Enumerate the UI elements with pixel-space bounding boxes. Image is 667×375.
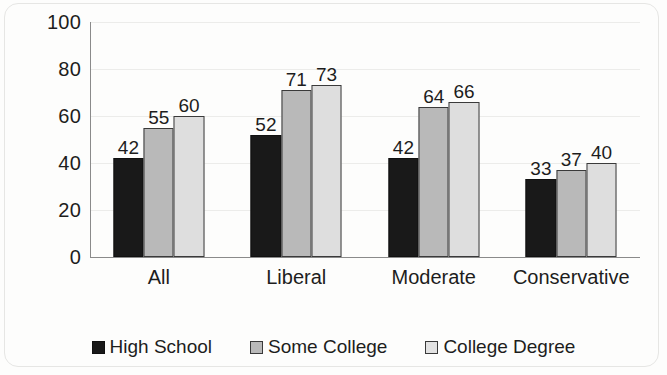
bar-chart: 100 80 60 40 20 0 42 55	[0, 0, 667, 375]
bar-value-label: 42	[118, 138, 139, 157]
bar-liberal-high-school[interactable]: 52	[251, 135, 281, 257]
bar-value-label: 37	[561, 150, 582, 169]
bar-moderate-some-college[interactable]: 64	[419, 107, 449, 257]
bar-group-moderate: 42 64 66	[365, 22, 503, 257]
y-axis-tick-labels: 100 80 60 40 20 0	[28, 0, 81, 375]
y-tick-0: 0	[28, 247, 81, 267]
bar-liberal-college-degree[interactable]: 73	[311, 85, 341, 257]
bar-group-all: 42 55 60	[90, 22, 228, 257]
bar-conservative-some-college[interactable]: 37	[556, 170, 586, 257]
category-label-moderate: Moderate	[365, 266, 503, 292]
y-tick-60: 60	[28, 106, 81, 126]
y-tick-80: 80	[28, 59, 81, 79]
y-tick-100: 100	[28, 12, 81, 32]
bar-moderate-high-school[interactable]: 42	[388, 158, 418, 257]
bar-group-liberal: 52 71 73	[228, 22, 366, 257]
bar-value-label: 71	[286, 70, 307, 89]
legend-swatch-icon-some-college	[250, 341, 263, 354]
legend-item-high-school[interactable]: High School	[92, 336, 212, 358]
chart-legend: High School Some College College Degree	[0, 336, 667, 358]
bar-value-label: 64	[423, 87, 444, 106]
bar-all-high-school[interactable]: 42	[113, 158, 143, 257]
bar-value-label: 55	[148, 108, 169, 127]
legend-item-college-degree[interactable]: College Degree	[425, 336, 575, 358]
legend-label-high-school: High School	[110, 336, 212, 358]
bar-conservative-college-degree[interactable]: 40	[586, 163, 616, 257]
legend-swatch-icon-high-school	[92, 341, 105, 354]
bar-conservative-high-school[interactable]: 33	[526, 179, 556, 257]
legend-label-college-degree: College Degree	[443, 336, 575, 358]
bar-value-label: 60	[178, 96, 199, 115]
bar-groups: 42 55 60 52 71	[90, 22, 640, 257]
bar-value-label: 66	[453, 82, 474, 101]
category-label-all: All	[90, 266, 228, 292]
legend-label-some-college: Some College	[268, 336, 387, 358]
bar-value-label: 40	[591, 143, 612, 162]
bar-value-label: 73	[316, 65, 337, 84]
legend-item-some-college[interactable]: Some College	[250, 336, 387, 358]
plot-area: 42 55 60 52 71	[90, 22, 640, 257]
bar-value-label: 52	[255, 115, 276, 134]
bar-group-conservative: 33 37 40	[503, 22, 641, 257]
x-axis-category-labels: All Liberal Moderate Conservative	[90, 266, 640, 292]
legend-swatch-icon-college-degree	[425, 341, 438, 354]
x-axis-line	[90, 257, 640, 258]
bar-value-label: 33	[530, 159, 551, 178]
bar-moderate-college-degree[interactable]: 66	[449, 102, 479, 257]
y-tick-40: 40	[28, 153, 81, 173]
bar-liberal-some-college[interactable]: 71	[281, 90, 311, 257]
y-tick-20: 20	[28, 200, 81, 220]
bar-value-label: 42	[393, 138, 414, 157]
bar-all-college-degree[interactable]: 60	[174, 116, 204, 257]
bar-all-some-college[interactable]: 55	[144, 128, 174, 257]
category-label-liberal: Liberal	[228, 266, 366, 292]
category-label-conservative: Conservative	[503, 266, 641, 292]
